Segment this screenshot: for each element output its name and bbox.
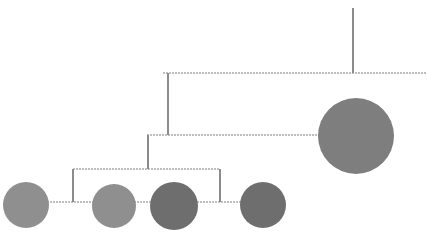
dendrogram-figure bbox=[0, 0, 427, 251]
dendrogram-canvas bbox=[0, 0, 427, 251]
dendrogram-node-circle[interactable] bbox=[3, 182, 49, 228]
dendrogram-node-circle[interactable] bbox=[240, 182, 286, 228]
dendrogram-node-circle[interactable] bbox=[318, 98, 394, 174]
dendrogram-node-circle[interactable] bbox=[92, 184, 136, 228]
dendrogram-node-circle[interactable] bbox=[150, 182, 198, 230]
